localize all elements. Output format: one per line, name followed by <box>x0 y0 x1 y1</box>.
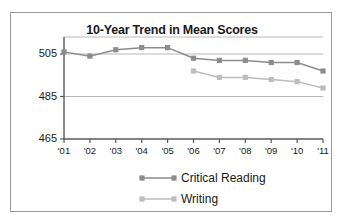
legend-marker-0-0 <box>139 175 144 180</box>
legend-marker-1-1 <box>171 196 176 201</box>
x-tick-label-6: '07 <box>213 145 225 156</box>
data-point-0-3 <box>139 45 144 50</box>
x-tick-label-2: '03 <box>110 145 122 156</box>
data-point-0-0 <box>61 49 66 54</box>
data-point-1-8 <box>269 77 274 82</box>
x-tick-label-1: '02 <box>84 145 96 156</box>
x-tick-label-8: '09 <box>265 145 277 156</box>
line-chart: 465485505'01'02'03'04'05'06'07'08'09'10'… <box>11 13 333 213</box>
data-point-0-6 <box>217 58 222 63</box>
plot-area: 465485505'01'02'03'04'05'06'07'08'09'10'… <box>11 13 333 213</box>
x-tick-label-0: '01 <box>58 145 70 156</box>
legend-marker-1-0 <box>139 196 144 201</box>
x-tick-label-9: '10 <box>291 145 303 156</box>
x-tick-label-10: '11 <box>317 145 329 156</box>
data-point-0-1 <box>87 54 92 59</box>
legend-label-0: Critical Reading <box>181 171 266 185</box>
data-point-0-7 <box>243 58 248 63</box>
y-tick-label-465: 465 <box>39 132 57 144</box>
legend-label-1: Writing <box>181 192 218 206</box>
legend-marker-0-1 <box>171 175 176 180</box>
data-point-0-4 <box>165 45 170 50</box>
x-tick-label-3: '04 <box>136 145 148 156</box>
x-tick-label-4: '05 <box>161 145 173 156</box>
x-tick-label-5: '06 <box>187 145 199 156</box>
data-point-0-8 <box>269 60 274 65</box>
data-point-1-10 <box>320 85 325 90</box>
y-tick-label-505: 505 <box>39 47 57 59</box>
data-point-1-7 <box>243 75 248 80</box>
data-point-1-9 <box>295 79 300 84</box>
x-tick-label-7: '08 <box>239 145 251 156</box>
chart-frame: 10-Year Trend in Mean Scores 465485505'0… <box>10 12 332 212</box>
data-point-0-2 <box>113 47 118 52</box>
series-line-1 <box>194 71 324 88</box>
y-tick-label-485: 485 <box>39 90 57 102</box>
data-point-1-6 <box>217 75 222 80</box>
data-point-1-5 <box>191 68 196 73</box>
data-point-0-9 <box>295 60 300 65</box>
data-point-0-5 <box>191 56 196 61</box>
data-point-0-10 <box>320 68 325 73</box>
